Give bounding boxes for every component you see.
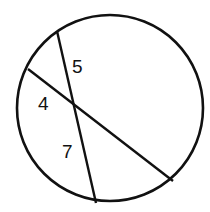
diagonal-chord: [28, 69, 173, 181]
segment-label-4: 4: [38, 93, 49, 114]
segment-label-7: 7: [62, 141, 73, 162]
diagram-canvas: 5 4 7: [0, 0, 210, 212]
chord-diagram: 5 4 7: [0, 0, 210, 212]
segment-label-5: 5: [72, 56, 83, 77]
